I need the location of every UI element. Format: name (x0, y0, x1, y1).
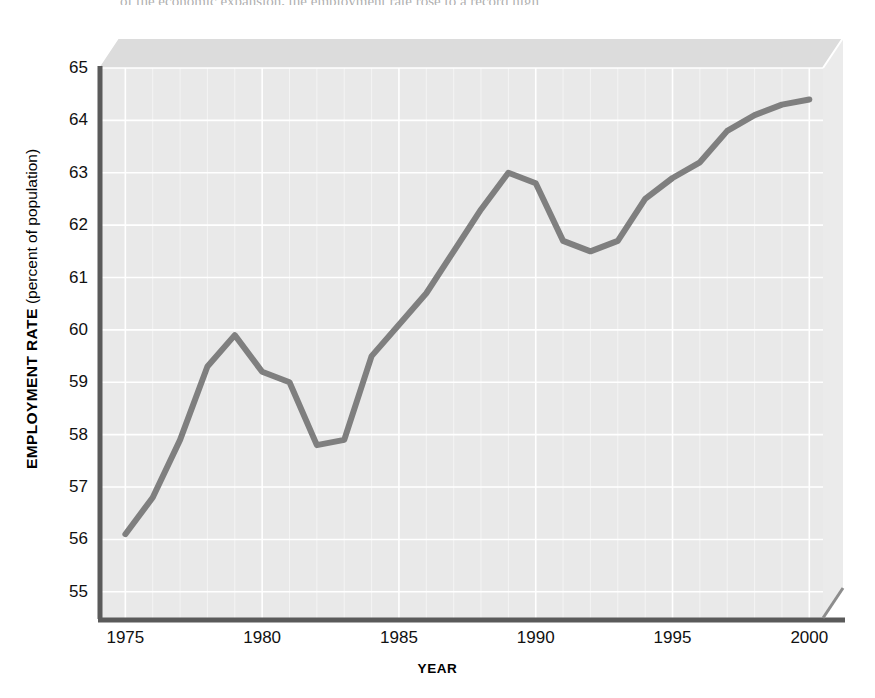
x-axis-tick-label: 1995 (633, 629, 713, 646)
x-axis-tick-label: 1975 (85, 629, 165, 646)
x-axis-tick-label: 1990 (496, 629, 576, 646)
chart-figure: of the economic expansion, the employmen… (0, 0, 875, 698)
x-axis-title: YEAR (0, 661, 875, 676)
x-axis-tick-label: 1985 (359, 629, 439, 646)
x-axis-tick-label: 2000 (769, 629, 849, 646)
x-axis-tick-labels: 197519801985199019952000 (0, 0, 875, 698)
x-axis-tick-label: 1980 (222, 629, 302, 646)
